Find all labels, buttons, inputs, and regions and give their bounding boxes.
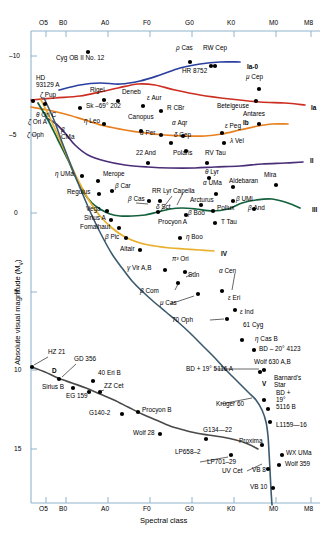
star-label: Wolf 359 — [285, 460, 310, 467]
star-point — [262, 398, 266, 402]
star-label: α Per — [140, 129, 155, 136]
x-tick-label-bottom: F0 — [143, 505, 151, 512]
star-label-name: Pic — [109, 233, 120, 240]
star-point — [156, 210, 160, 214]
star-point — [220, 289, 224, 293]
star-label: Krüger 60 — [216, 400, 244, 407]
star-point — [266, 467, 270, 471]
curve-iii — [38, 103, 300, 216]
star-point — [147, 199, 151, 203]
star-point — [91, 379, 95, 383]
star-point — [97, 192, 101, 196]
star-point — [178, 236, 182, 240]
star-label: β Cas — [128, 195, 145, 202]
star-point — [240, 338, 244, 342]
x-tick-label-bottom: B0 — [59, 505, 67, 512]
x-tick-label-bottom: M0 — [269, 505, 278, 512]
luminosity-class-label-iii: III — [312, 206, 317, 213]
star-label: α Aqr — [172, 119, 187, 126]
axes-group — [31, 31, 320, 503]
star-label: β Com — [140, 287, 159, 294]
star-label-name: Ori C — [39, 111, 56, 118]
star-point — [211, 209, 215, 213]
star-label: Altair — [120, 245, 135, 252]
star-label-line: Barnard's — [274, 374, 301, 381]
star-label-line: 5116 B — [276, 403, 296, 410]
star-point — [98, 390, 102, 394]
star-point — [271, 486, 275, 490]
star-label: Capella — [173, 187, 195, 194]
star-label: Polaris — [173, 149, 193, 156]
star-label: γ Vir A,B — [127, 264, 151, 271]
star-label: UV Cet — [222, 467, 243, 474]
star-label-line: CMa — [61, 133, 75, 140]
star-label: ε Peg — [225, 122, 241, 129]
star-label-name: Cep — [250, 73, 264, 80]
star-point — [43, 102, 47, 106]
star-label-name: UMa — [207, 179, 222, 186]
luminosity-class-label-ib: Ib — [243, 119, 249, 126]
star-label: ζ Pup — [40, 91, 56, 98]
star-label: η Cas B — [255, 335, 278, 342]
star-label-line: 19° — [276, 396, 296, 403]
star-point — [233, 308, 237, 312]
star-point — [225, 317, 229, 321]
star-label: α Cen — [219, 267, 236, 274]
leader-line — [136, 203, 148, 204]
curve-v — [44, 98, 272, 505]
x-tick-label-bottom: G0 — [185, 505, 194, 512]
star-label: θ Lyr — [205, 168, 219, 175]
star-label-name: Per — [144, 129, 156, 136]
star-label: ζ Oph — [27, 131, 44, 138]
star-label: β Car — [115, 182, 131, 189]
star-label: VB 8 — [252, 466, 266, 473]
star-point — [183, 270, 187, 274]
star-label-name: Sct — [160, 203, 171, 210]
star-label: Sk –69° 202 — [86, 102, 121, 109]
star-label: β And — [248, 204, 265, 211]
star-label-name: Eri — [231, 294, 241, 301]
star-label-name: And — [252, 204, 265, 211]
star-label-line: β — [61, 126, 75, 133]
star-label: T Tau — [221, 218, 237, 225]
star-label-name: Cep — [178, 131, 192, 138]
star-point — [266, 407, 270, 411]
star-label: 70 Oph — [172, 316, 193, 323]
star-label-name: Cas — [164, 299, 177, 306]
star-label-name: Boo — [190, 233, 203, 240]
star-label: η Leo — [84, 117, 100, 124]
star-point — [199, 203, 203, 207]
star-point — [109, 218, 113, 222]
y-axis-title: Absolute visual magnitude (MV) — [13, 260, 24, 366]
star-label-name: Aur — [150, 94, 162, 101]
star-point — [277, 463, 281, 467]
star-label: Sirius A — [84, 214, 106, 221]
star-label: R CBr — [167, 104, 184, 111]
x-tick-label-top: M0 — [269, 19, 278, 26]
star-label: BD + 19° 5116 A — [186, 365, 233, 372]
star-point — [257, 122, 261, 126]
star-point — [231, 199, 235, 203]
star-point — [188, 60, 192, 64]
star-label: Rigel — [90, 86, 105, 93]
star-label: Cyg OB II No. 12 — [56, 54, 104, 61]
star-label: Procyon A — [158, 218, 187, 225]
luminosity-class-label-ia: Ia — [311, 104, 316, 111]
star-point — [141, 104, 145, 108]
star-label-name: Leo — [88, 117, 100, 124]
hr-diagram-figure: O5O5B0B0A0A0F0F0G0G0K0K0M0M0M8M8–10–5051… — [0, 0, 332, 533]
star-label: β Boo — [188, 209, 205, 216]
star-label: 22 And — [136, 149, 156, 156]
star-point — [159, 109, 163, 113]
star-point — [169, 141, 173, 145]
star-label: EG 159 — [66, 392, 88, 399]
star-label-name: Ori — [178, 255, 188, 262]
star-label-name: Ori A — [31, 118, 47, 125]
star-label: δ Sct — [156, 203, 171, 210]
star-label-name: Oph — [30, 131, 44, 138]
y-tick-label: 10 — [14, 366, 21, 373]
star-point — [258, 370, 262, 374]
star-label: Sirius B — [42, 383, 64, 390]
star-label: L1159—16 — [276, 421, 307, 428]
x-tick-label-bottom: K0 — [227, 505, 235, 512]
